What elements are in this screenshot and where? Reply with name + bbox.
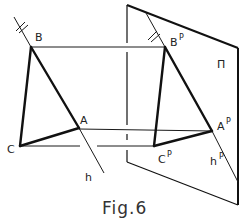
label-h: h [85, 171, 92, 184]
figure-caption: Fig.6 [102, 198, 147, 218]
label-A: A [80, 114, 88, 127]
label-C: C [7, 143, 15, 156]
projection-ray-A [79, 129, 212, 131]
edge-BA [31, 47, 79, 128]
tick-mark-hP-1 [148, 31, 157, 40]
label-CP: C [158, 153, 166, 166]
label-hP: h [210, 155, 217, 168]
label-AP-sup: P [226, 117, 231, 126]
label-AP: A [217, 120, 225, 133]
label-hP-sup: P [219, 152, 224, 161]
label-BP-sup: P [179, 33, 184, 42]
edge-CA [20, 128, 79, 146]
edge-BP-CP [154, 47, 165, 146]
label-CP-sup: P [167, 150, 172, 159]
label-plane-pi: Π [217, 58, 225, 71]
projection-diagram: B A C h B P A P C P h P Π Fig.6 [0, 0, 246, 223]
line-h-lower [79, 128, 104, 173]
edge-BC [20, 47, 31, 146]
label-BP: B [170, 36, 178, 49]
line-h-upper [14, 17, 31, 47]
edge-CP-AP [154, 131, 212, 146]
edge-BP-AP [165, 47, 212, 131]
label-B: B [35, 31, 43, 44]
